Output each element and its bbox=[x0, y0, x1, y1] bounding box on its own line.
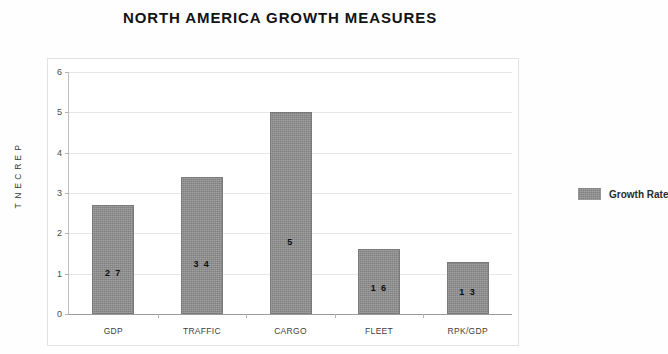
legend-swatch-growth-rate bbox=[578, 188, 601, 200]
y-tick-label: 2 bbox=[57, 228, 62, 238]
bar-group[interactable]: 1 3 bbox=[447, 72, 489, 314]
bar-cargo[interactable] bbox=[270, 112, 312, 314]
bar-value-label: 2 7 bbox=[92, 268, 134, 278]
bar-traffic[interactable] bbox=[181, 177, 223, 314]
y-tick-mark bbox=[65, 314, 69, 315]
bar-group[interactable]: 2 7 bbox=[92, 72, 134, 314]
y-tick-label: 5 bbox=[57, 107, 62, 117]
y-axis-title-letter: T bbox=[14, 203, 24, 208]
chart-page: NORTH AMERICA GROWTH MEASURES PERCENT 01… bbox=[0, 0, 668, 354]
bar-group[interactable]: 5 bbox=[270, 72, 312, 314]
y-tick-label: 4 bbox=[57, 148, 62, 158]
y-tick-label: 0 bbox=[57, 309, 62, 319]
bar-gdp[interactable] bbox=[92, 205, 134, 314]
y-axis-title-letter: N bbox=[14, 193, 24, 199]
y-axis-title-letter: C bbox=[14, 174, 24, 180]
y-tick-label: 3 bbox=[57, 188, 62, 198]
y-axis-title-letter: E bbox=[14, 155, 24, 161]
y-axis-title-letter: R bbox=[14, 164, 24, 170]
y-tick-label: 1 bbox=[57, 269, 62, 279]
x-tick-label: CARGO bbox=[274, 326, 307, 336]
x-tick-mark bbox=[423, 314, 424, 318]
chart-title: NORTH AMERICA GROWTH MEASURES bbox=[0, 9, 560, 26]
bar-group[interactable]: 3 4 bbox=[181, 72, 223, 314]
x-tick-mark bbox=[158, 314, 159, 318]
x-tick-mark bbox=[246, 314, 247, 318]
plot-area: 0123456 2 7GDP3 4TRAFFIC5CARGO1 6FLEET1 … bbox=[68, 72, 512, 315]
x-tick-label: GDP bbox=[104, 326, 123, 336]
bar-value-label: 3 4 bbox=[181, 259, 223, 269]
y-axis-title-letter: E bbox=[14, 183, 24, 189]
x-tick-label: FLEET bbox=[365, 326, 393, 336]
chart-legend: Growth Rate bbox=[578, 188, 668, 200]
y-tick-label: 6 bbox=[57, 67, 62, 77]
y-axis-title: PERCENT bbox=[10, 143, 28, 210]
bar-value-label: 5 bbox=[270, 237, 312, 247]
x-tick-label: TRAFFIC bbox=[183, 326, 221, 336]
x-tick-mark bbox=[335, 314, 336, 318]
bars-layer: 2 7GDP3 4TRAFFIC5CARGO1 6FLEET1 3RPK/GDP bbox=[69, 72, 512, 314]
x-tick-label: RPK/GDP bbox=[448, 326, 488, 336]
y-axis-title-letter: P bbox=[14, 145, 24, 151]
legend-label-growth-rate: Growth Rate bbox=[609, 189, 668, 200]
bar-value-label: 1 3 bbox=[447, 287, 489, 297]
bar-group[interactable]: 1 6 bbox=[358, 72, 400, 314]
bar-value-label: 1 6 bbox=[358, 283, 400, 293]
